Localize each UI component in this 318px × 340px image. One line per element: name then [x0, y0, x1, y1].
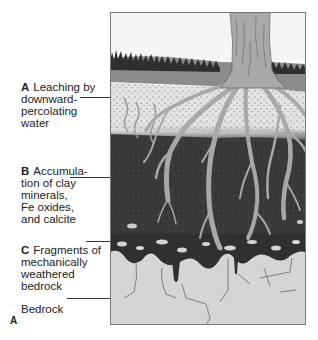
sky-area — [110, 12, 306, 60]
figure-letter: A — [10, 315, 17, 326]
soil-profile-diagram — [110, 12, 306, 325]
label-bedrock: Bedrock — [21, 291, 63, 315]
label-horizon-b-key: B — [21, 165, 29, 177]
label-horizon-c-key: C — [21, 244, 29, 256]
label-horizon-a: ALeaching by downward- percolating water — [21, 69, 95, 129]
label-bedrock-text: Bedrock — [21, 303, 63, 315]
label-horizon-a-text: Leaching by downward- percolating water — [21, 81, 95, 129]
label-horizon-b: BAccumula- tion of clay minerals, Fe oxi… — [21, 153, 88, 225]
label-horizon-c-text: Fragments of mechanically weathered bedr… — [21, 244, 101, 292]
leader-line-a — [80, 97, 114, 98]
label-horizon-b-text: Accumula- tion of clay minerals, Fe oxid… — [21, 165, 88, 225]
label-horizon-a-key: A — [21, 81, 29, 93]
